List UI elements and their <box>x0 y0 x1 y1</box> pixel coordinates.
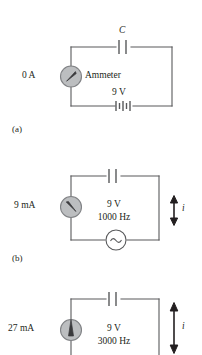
panel-c-circuit-diagram <box>0 0 202 355</box>
panel-c-source-voltage: 9 V <box>90 324 138 334</box>
current-arrow <box>170 303 178 354</box>
ammeter-gauge <box>61 320 82 341</box>
capacitor-symbol <box>109 292 116 306</box>
figure-canvas: 0 A Ammeter C 9 V (a) <box>0 0 202 355</box>
panel-c-current-label: i <box>182 322 185 332</box>
panel-c-source-frequency: 3000 Hz <box>88 337 140 347</box>
panel-c-meter-reading: 27 mA <box>8 324 34 334</box>
